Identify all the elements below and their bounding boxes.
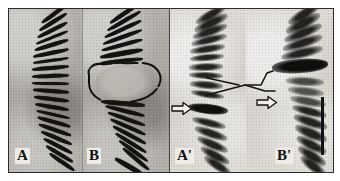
arrow-right-outline-icon — [171, 101, 193, 116]
grain-band — [286, 76, 324, 87]
panel-divider-ab — [82, 9, 83, 172]
panel-label-a: A — [15, 148, 30, 164]
band — [33, 57, 69, 65]
band — [33, 88, 69, 95]
band — [32, 82, 69, 86]
panel-label-b: B — [87, 148, 101, 164]
bracket-annotation — [205, 65, 277, 99]
labelled-band-b-prime — [272, 57, 329, 75]
band — [32, 64, 69, 71]
panel-a: A — [9, 9, 83, 172]
puff-outline — [85, 61, 165, 107]
arrow-a-prime — [171, 101, 193, 116]
panel-label-b-prime: B' — [275, 148, 293, 164]
band — [32, 73, 69, 78]
scale-bar — [321, 97, 324, 155]
labelled-band-a-prime — [188, 102, 229, 116]
panel-label-a-prime: A' — [175, 148, 194, 164]
figure-container: A — [0, 0, 340, 181]
band — [34, 95, 69, 103]
micrograph-plate: A — [8, 8, 334, 173]
